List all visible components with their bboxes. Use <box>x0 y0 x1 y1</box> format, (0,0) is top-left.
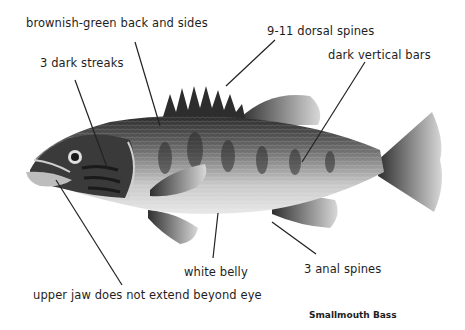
fish-head <box>30 134 134 198</box>
diagram-caption: Smallmouth Bass <box>309 310 397 320</box>
label-dark-streaks: 3 dark streaks <box>40 56 124 70</box>
label-upper-jaw: upper jaw does not extend beyond eye <box>33 288 262 302</box>
label-white-belly: white belly <box>184 265 248 279</box>
pelvic-fin <box>148 210 198 244</box>
label-anal-spines: 3 anal spines <box>304 262 381 276</box>
tail-fin <box>378 112 442 212</box>
label-vertical-bars: dark vertical bars <box>328 48 431 62</box>
label-dorsal-spines: 9-11 dorsal spines <box>267 24 374 38</box>
label-back-and-sides: brownish-green back and sides <box>26 16 208 30</box>
